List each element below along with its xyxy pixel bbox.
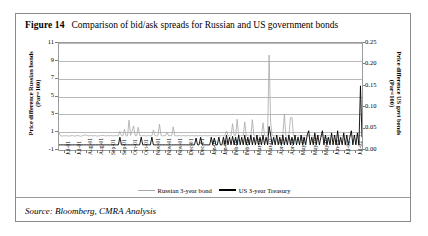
x-axis-tickmark: [176, 150, 177, 153]
x-axis-tick-labels: Jul-01Jul-01Aug-01Aug-01Sep-01Sep-01Oct-…: [58, 153, 363, 183]
x-axis-tick: Jan-02: [223, 140, 229, 155]
x-axis-tickmark: [165, 150, 166, 153]
x-axis-tickmark: [221, 150, 222, 153]
x-axis-tickmark: [142, 150, 143, 153]
x-axis-tick: Nov-01: [156, 138, 162, 155]
left-axis-tick: 9: [32, 57, 54, 64]
right-axis-title: Price difference US govt bonds(Par=100): [389, 38, 404, 148]
left-axis-tick: 11: [32, 39, 54, 46]
x-axis-tickmark: [75, 150, 76, 153]
x-axis-tick: Oct-01: [144, 139, 150, 155]
right-axis-tick: 0.25: [365, 39, 391, 46]
figure-title-bar: Figure 14 Comparison of bid/ask spreads …: [16, 14, 410, 36]
x-axis-tickmark: [187, 150, 188, 153]
legend-swatch-us-icon: [219, 189, 236, 191]
x-axis-tickmark: [344, 150, 345, 153]
right-axis-tick: 0.00: [365, 146, 391, 153]
x-axis-tick: Mar-02: [257, 138, 263, 155]
x-axis-tick: Jul-01: [66, 141, 72, 155]
x-axis-tickmark: [97, 150, 98, 153]
x-axis-tick: May-02: [301, 137, 307, 155]
x-axis-tick: May-02: [313, 137, 319, 155]
x-axis-tick: Nov-01: [178, 138, 184, 155]
legend-label-russian: Russian 3-year bond: [158, 187, 212, 194]
chart-region: Price difference Russian bonds(Par=100) …: [16, 34, 412, 197]
x-axis-tick: Jul-02: [346, 141, 352, 155]
x-axis-tickmark: [64, 150, 65, 153]
right-axis-tick: 0.10: [365, 103, 391, 110]
source-divider: [16, 197, 410, 198]
x-axis-tickmark: [254, 150, 255, 153]
x-axis-tickmark: [333, 150, 334, 153]
x-axis-tick: Sep-01: [111, 139, 117, 155]
figure-card: Figure 14 Comparison of bid/ask spreads …: [15, 13, 411, 222]
x-axis-tick: Apr-02: [279, 139, 285, 155]
legend-label-us: US 3-year Treasury: [239, 187, 291, 194]
legend-swatch-russian-icon: [138, 190, 155, 191]
left-axis-tick: 3: [32, 110, 54, 117]
left-axis-tick: 1: [32, 128, 54, 135]
x-axis-tick: Sep-01: [122, 139, 128, 155]
x-axis-tick: Mar-02: [268, 138, 274, 155]
x-axis-tickmark: [109, 150, 110, 153]
x-axis-tickmark: [322, 150, 323, 153]
x-axis-tick: Aug-01: [88, 138, 94, 155]
x-axis-tickmark: [288, 150, 289, 153]
x-axis-tickmark: [299, 150, 300, 153]
x-axis-tick: Feb-02: [245, 139, 251, 155]
right-axis-tick: 0.20: [365, 60, 391, 67]
left-axis-tick: -1: [32, 146, 54, 153]
x-axis-tick: Dec-01: [200, 139, 206, 155]
right-axis-tick: 0.05: [365, 124, 391, 131]
x-axis-tick: Nov-01: [167, 138, 173, 155]
data-series-layer: [59, 43, 362, 150]
x-axis-tick: Feb-02: [234, 139, 240, 155]
x-axis-tickmark: [277, 150, 278, 153]
source-note: Source: Bloomberg, CMRA Analysis: [25, 206, 156, 216]
chart-legend: Russian 3-year bond US 3-year Treasury: [16, 184, 412, 196]
x-axis-tick: Dec-01: [189, 139, 195, 155]
plot-area: [58, 42, 363, 151]
x-axis-tick: Jun-02: [335, 140, 341, 155]
x-axis-tickmark: [198, 150, 199, 153]
legend-item-russian: Russian 3-year bond: [138, 187, 212, 194]
x-axis-tick: Apr-02: [290, 139, 296, 155]
x-axis-tick: Jul-02: [358, 141, 364, 155]
x-axis-tickmark: [243, 150, 244, 153]
x-axis-tickmark: [355, 150, 356, 153]
x-axis-tickmark: [153, 150, 154, 153]
x-axis-tick: Aug-01: [99, 138, 105, 155]
legend-item-us: US 3-year Treasury: [219, 187, 291, 194]
x-axis-tick: May-02: [324, 137, 330, 155]
figure-number-label: Figure 14: [25, 20, 65, 30]
right-axis-tick: 0.15: [365, 82, 391, 89]
x-axis-tickmark: [232, 150, 233, 153]
x-axis-tickmark: [120, 150, 121, 153]
x-axis-tick: Jul-01: [77, 141, 83, 155]
x-axis-tick: Jan-02: [212, 140, 218, 155]
left-axis-tick: 5: [32, 92, 54, 99]
figure-title-text: Comparison of bid/ask spreads for Russia…: [72, 20, 339, 30]
x-axis-tick: Oct-01: [133, 139, 139, 155]
x-axis-tickmark: [311, 150, 312, 153]
x-axis-tickmark: [131, 150, 132, 153]
x-axis-tickmark: [86, 150, 87, 153]
x-axis-tickmark: [210, 150, 211, 153]
x-axis-tickmark: [266, 150, 267, 153]
left-axis-tick: 7: [32, 74, 54, 81]
series-line-russian-3-year-bond: [59, 55, 362, 136]
